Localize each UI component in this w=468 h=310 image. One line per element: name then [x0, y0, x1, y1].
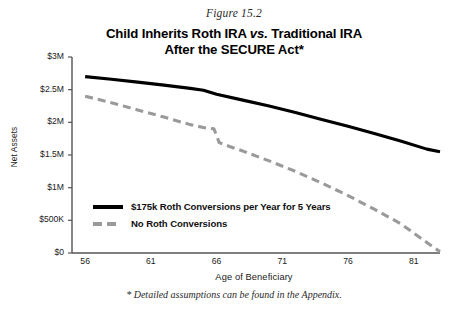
figure-container: Figure 15.2 Child Inherits Roth IRA vs. … [0, 0, 468, 310]
legend-swatch-solid-icon [93, 200, 123, 214]
series-line-roth-conversions [85, 77, 440, 152]
legend-item-roth-conversions: $175k Roth Conversions per Year for 5 Ye… [93, 198, 383, 215]
chart-legend: $175k Roth Conversions per Year for 5 Ye… [93, 198, 383, 232]
legend-label-no-conversions: No Roth Conversions [131, 218, 227, 229]
legend-swatch-dashed-icon [93, 217, 123, 231]
plot-area [0, 0, 468, 310]
x-axis-title: Age of Beneficiary [70, 272, 438, 282]
legend-item-no-conversions: No Roth Conversions [93, 215, 383, 232]
legend-label-roth-conversions: $175k Roth Conversions per Year for 5 Ye… [131, 201, 331, 212]
figure-footnote: * Detailed assumptions can be found in t… [0, 289, 468, 300]
